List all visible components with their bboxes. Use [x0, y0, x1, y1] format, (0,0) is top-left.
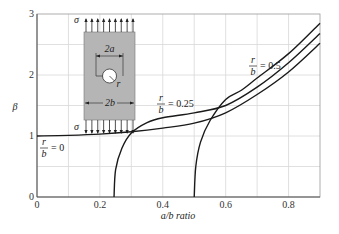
y-axis-label: β [12, 101, 18, 112]
y-tick-label: 1 [29, 130, 34, 141]
plate-width-label: 2b [105, 97, 115, 108]
axes: 00.20.40.60.80123 [29, 8, 320, 210]
x-tick-label: 0.6 [219, 199, 232, 210]
svg-text:b: b [251, 66, 256, 77]
x-axis-label: a/b ratio [161, 210, 196, 221]
y-tick-label: 3 [29, 8, 34, 19]
radius-label: r [117, 78, 121, 89]
curve-r-b-0 [37, 43, 320, 136]
svg-text:r: r [251, 54, 255, 65]
curve-r-b-0-25 [114, 34, 320, 197]
svg-text:= 0.5: = 0.5 [260, 60, 281, 71]
svg-text:= 0: = 0 [51, 142, 64, 153]
svg-text:r: r [42, 136, 46, 147]
plate-specimen-inset: σσr2a2b [74, 14, 135, 134]
hole-width-label: 2a [105, 43, 115, 54]
svg-text:r: r [159, 92, 163, 103]
x-tick-label: 0.2 [94, 199, 107, 210]
svg-text:b: b [42, 148, 47, 159]
y-tick-label: 0 [29, 191, 34, 202]
svg-text:b: b [159, 104, 164, 115]
x-tick-label: 0.4 [157, 199, 170, 210]
y-tick-label: 2 [29, 69, 34, 80]
sigma-bottom: σ [74, 121, 80, 132]
curve-label: rb= 0.25 [157, 92, 194, 115]
curve-label: rb= 0 [40, 136, 64, 159]
curve-labels: rb= 0rb= 0.25rb= 0.5 [40, 54, 281, 159]
sigma-top: σ [74, 14, 80, 25]
beta-vs-ab-ratio-chart: 00.20.40.60.80123 σσr2a2b rb= 0rb= 0.25r… [0, 0, 339, 234]
svg-text:= 0.25: = 0.25 [168, 98, 194, 109]
x-tick-label: 0.8 [282, 199, 295, 210]
curves [37, 23, 320, 197]
x-tick-label: 0 [35, 199, 40, 210]
